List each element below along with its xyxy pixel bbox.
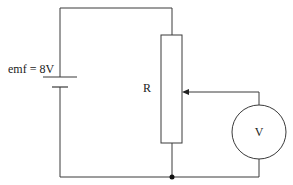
circuit-diagram: emf = 8V R V [0, 0, 293, 185]
junction-dot [170, 175, 175, 180]
battery-icon [43, 77, 77, 87]
wiper-arrow-icon [182, 89, 189, 95]
voltmeter-label: V [255, 125, 264, 139]
wire-top [60, 8, 172, 77]
battery-label: emf = 8V [8, 62, 54, 76]
wire-wiper [186, 92, 259, 105]
resistor-label: R [143, 81, 151, 95]
wire-left-bottom [60, 87, 259, 177]
resistor-icon [161, 35, 182, 143]
